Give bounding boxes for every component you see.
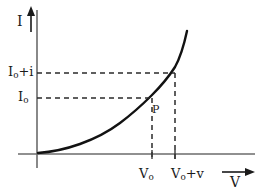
x-axis-label: V (230, 175, 240, 189)
figure-canvas (0, 0, 261, 195)
y-axis-arrow-icon (27, 6, 35, 32)
x-tick-label-vo-plus-v: Vo+v (171, 167, 204, 180)
x-tick-label-vo: Vo (139, 167, 154, 180)
operating-point-label: P (152, 104, 159, 115)
y-tick-label-io-plus-i: Io+i (8, 65, 34, 78)
y-tick-label-io: Io (18, 90, 28, 103)
y-axis-label: I (17, 14, 23, 28)
iv-characteristic-figure: I V Io+i Io Vo Vo+v P (0, 0, 261, 195)
iv-curve (38, 31, 187, 153)
